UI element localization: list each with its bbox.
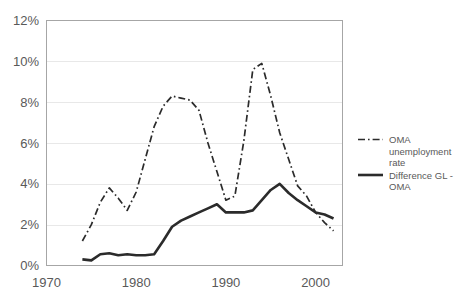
x-tick-label: 1980	[122, 275, 151, 290]
x-tick-label: 1990	[211, 275, 240, 290]
y-tick-label: 12%	[13, 13, 39, 28]
x-tick-label: 2000	[301, 275, 330, 290]
legend-label-1: OMA	[389, 181, 411, 192]
y-tick-label: 2%	[20, 217, 39, 232]
line-chart: 12%10%8%6%4%2%0% 1970198019902000 OMAune…	[0, 0, 457, 302]
legend-label-0: OMA	[389, 134, 411, 145]
x-tick-label: 1970	[32, 275, 61, 290]
y-tick-label: 0%	[20, 258, 39, 273]
y-tick-label: 6%	[20, 136, 39, 151]
y-tick-label: 4%	[20, 176, 39, 191]
y-tick-label: 8%	[20, 95, 39, 110]
legend-label-0: rate	[389, 157, 405, 168]
chart-container: 12%10%8%6%4%2%0% 1970198019902000 OMAune…	[0, 0, 457, 302]
legend-label-1: Difference GL -	[389, 170, 453, 181]
legend-label-0: unemployment	[389, 146, 452, 157]
y-tick-label: 10%	[13, 54, 39, 69]
